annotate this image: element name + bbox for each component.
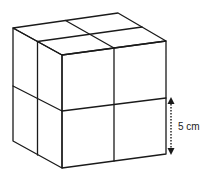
arrow-down-icon: [168, 148, 175, 155]
top-face: [13, 13, 166, 55]
front-face: [62, 41, 166, 168]
dimension-arrow: [168, 97, 175, 155]
cube-diagram: [0, 0, 209, 176]
left-face: [13, 28, 62, 168]
dimension-label: 5 cm: [178, 121, 200, 132]
arrow-up-icon: [168, 97, 175, 104]
